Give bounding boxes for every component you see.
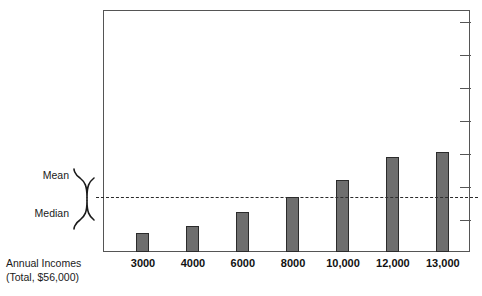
right-tick-0 [460, 22, 471, 23]
right-tick-5 [460, 187, 471, 188]
x-axis-tick-labels: 300040006000800010,00012,00013,000 [103, 256, 470, 272]
x-axis-caption-line2: (Total, $56,000) [6, 270, 102, 284]
right-tick-6 [460, 220, 471, 221]
bar-8000 [286, 197, 299, 252]
x-tick-13000: 13,000 [426, 256, 460, 270]
x-axis-caption: Annual Incomes (Total, $56,000) [6, 256, 102, 284]
mean-median-reference-line [96, 197, 478, 198]
mean-label: Mean [43, 169, 69, 181]
bar-10000 [336, 180, 349, 252]
x-tick-4000: 4000 [181, 256, 205, 270]
x-tick-10000: 10,000 [326, 256, 360, 270]
right-tick-2 [460, 88, 471, 89]
x-tick-3000: 3000 [131, 256, 155, 270]
bars-layer [103, 10, 470, 252]
median-label: Median [35, 207, 69, 219]
right-tick-3 [460, 121, 471, 122]
right-tick-4 [460, 154, 471, 155]
right-tick-1 [460, 55, 471, 56]
bar-4000 [186, 226, 199, 252]
bar-3000 [136, 233, 149, 252]
x-tick-8000: 8000 [281, 256, 305, 270]
curly-brace-icon [71, 164, 97, 234]
bar-6000 [236, 212, 249, 252]
x-axis-caption-line1: Annual Incomes [6, 256, 102, 270]
x-tick-12000: 12,000 [376, 256, 410, 270]
right-axis-ticks [458, 10, 471, 252]
income-bar-chart: Mean Median 300040006000800010,00012,000… [0, 0, 482, 296]
bar-12000 [386, 157, 399, 252]
mean-median-annotation: Mean Median [0, 160, 103, 236]
bar-13000 [436, 152, 449, 252]
x-tick-6000: 6000 [231, 256, 255, 270]
